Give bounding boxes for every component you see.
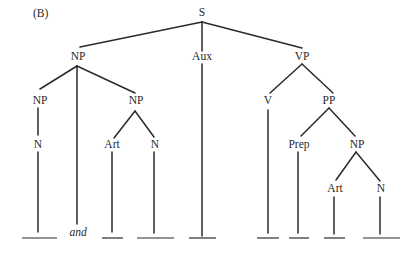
edge-s-np — [80, 22, 202, 47]
edge-pp-np — [329, 108, 355, 136]
node-s: S — [199, 7, 205, 19]
node-pp: PP — [323, 95, 336, 107]
node-art1: Art — [104, 139, 119, 151]
node-vp: VP — [295, 51, 310, 63]
node-aux: Aux — [192, 51, 212, 63]
edge-np2-n2 — [135, 111, 154, 137]
tree-edges — [0, 0, 419, 256]
figure-label: (B) — [33, 8, 48, 20]
edge-pp-prep — [301, 108, 329, 136]
node-n1: N — [34, 139, 42, 151]
syntax-tree-diagram: (B) S NP Aux VP NP NP V PP N Art N Prep … — [0, 0, 419, 256]
node-n2: N — [151, 139, 159, 151]
edge-npobj-art2 — [336, 152, 356, 180]
edge-vp-v — [270, 64, 302, 93]
edge-npobj-n3 — [356, 152, 380, 181]
node-prep: Prep — [288, 139, 309, 151]
node-np-conj1: NP — [33, 95, 48, 107]
node-n3: N — [377, 183, 385, 195]
edge-np2-art1 — [114, 111, 135, 138]
node-np-subject: NP — [71, 51, 86, 63]
edge-vp-pp — [302, 64, 333, 93]
node-np-conj2: NP — [129, 95, 144, 107]
edge-np-np2 — [77, 66, 135, 93]
conjunction-and: and — [69, 227, 86, 239]
edge-np-np1 — [40, 66, 77, 89]
edge-s-vp — [202, 22, 302, 48]
node-art2: Art — [327, 183, 342, 195]
node-np-obj: NP — [350, 139, 365, 151]
node-v: V — [264, 95, 272, 107]
